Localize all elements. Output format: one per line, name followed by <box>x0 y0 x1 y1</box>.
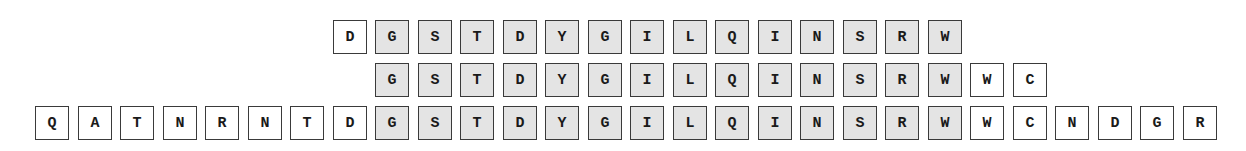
residue-box: R <box>1183 106 1217 140</box>
residue-box: N <box>163 106 197 140</box>
shaded-residue-box: W <box>928 106 962 140</box>
shaded-residue-box: S <box>418 63 452 97</box>
shaded-residue-box: N <box>800 63 834 97</box>
shaded-residue-box: I <box>630 20 664 54</box>
shaded-residue-box: S <box>418 20 452 54</box>
residue-box: N <box>1055 106 1089 140</box>
residue-box: T <box>120 106 154 140</box>
shaded-residue-box: W <box>928 20 962 54</box>
residue-box: N <box>248 106 282 140</box>
shaded-residue-box: I <box>758 20 792 54</box>
shaded-residue-box: I <box>630 63 664 97</box>
shaded-residue-box: L <box>673 63 707 97</box>
shaded-residue-box: D <box>503 63 537 97</box>
shaded-residue-box: S <box>418 106 452 140</box>
shaded-residue-box: S <box>843 63 877 97</box>
residue-box: Q <box>35 106 69 140</box>
shaded-residue-box: G <box>375 106 409 140</box>
residue-box: D <box>333 20 367 54</box>
shaded-residue-box: I <box>630 106 664 140</box>
shaded-residue-box: L <box>673 20 707 54</box>
shaded-residue-box: Y <box>545 106 579 140</box>
shaded-residue-box: Q <box>715 20 749 54</box>
shaded-residue-box: L <box>673 106 707 140</box>
shaded-residue-box: T <box>460 106 494 140</box>
shaded-residue-box: D <box>503 106 537 140</box>
residue-box: R <box>205 106 239 140</box>
residue-box: D <box>1098 106 1132 140</box>
shaded-residue-box: Y <box>545 63 579 97</box>
shaded-residue-box: G <box>375 20 409 54</box>
shaded-residue-box: N <box>800 20 834 54</box>
residue-box: C <box>1013 106 1047 140</box>
row-3: QATNRNTDGSTDYGILQINSRWWCNDGR <box>0 106 1246 142</box>
shaded-residue-box: G <box>588 106 622 140</box>
shaded-residue-box: I <box>758 106 792 140</box>
shaded-residue-box: T <box>460 20 494 54</box>
shaded-residue-box: R <box>885 20 919 54</box>
shaded-residue-box: S <box>843 20 877 54</box>
shaded-residue-box: Y <box>545 20 579 54</box>
shaded-residue-box: W <box>928 63 962 97</box>
row-1: DGSTDYGILQINSRW <box>0 20 1246 56</box>
shaded-residue-box: N <box>800 106 834 140</box>
shaded-residue-box: I <box>758 63 792 97</box>
shaded-residue-box: R <box>885 106 919 140</box>
residue-box: C <box>1013 63 1047 97</box>
shaded-residue-box: G <box>375 63 409 97</box>
row-2: GSTDYGILQINSRWWC <box>0 63 1246 99</box>
shaded-residue-box: D <box>503 20 537 54</box>
residue-box: D <box>333 106 367 140</box>
shaded-residue-box: Q <box>715 63 749 97</box>
shaded-residue-box: R <box>885 63 919 97</box>
shaded-residue-box: S <box>843 106 877 140</box>
shaded-residue-box: T <box>460 63 494 97</box>
shaded-residue-box: Q <box>715 106 749 140</box>
residue-box: W <box>970 106 1004 140</box>
residue-box: T <box>290 106 324 140</box>
shaded-residue-box: G <box>588 20 622 54</box>
residue-box: W <box>970 63 1004 97</box>
residue-box: G <box>1140 106 1174 140</box>
shaded-residue-box: G <box>588 63 622 97</box>
residue-box: A <box>78 106 112 140</box>
